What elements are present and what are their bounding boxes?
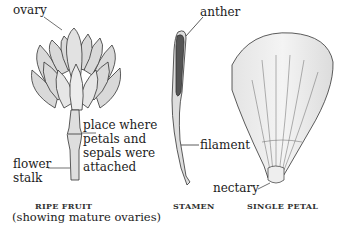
label-anther: anther (200, 6, 240, 19)
label-ovary: ovary (13, 4, 47, 17)
caption-stamen: STAMEN (173, 201, 215, 211)
label-attachment-line-4: attached (83, 161, 136, 174)
diagram-illustrations (0, 0, 340, 230)
label-attachment-line-1: place where (83, 119, 157, 132)
subcaption-ripe-fruit: (showing mature ovaries) (12, 210, 161, 224)
caption-single-petal: SINGLE PETAL (247, 201, 318, 211)
label-nectary: nectary (213, 182, 259, 195)
single-petal-illustration (232, 33, 333, 189)
label-flower: flower (13, 158, 51, 171)
label-attachment-line-3: sepals were (83, 147, 155, 160)
flower-stalk-illustration (67, 110, 82, 180)
label-stalk: stalk (13, 172, 42, 185)
ripe-fruit-illustration (31, 28, 120, 110)
label-filament: filament (200, 139, 250, 152)
label-attachment-line-2: petals and (83, 133, 146, 146)
stamen-illustration (172, 17, 203, 185)
